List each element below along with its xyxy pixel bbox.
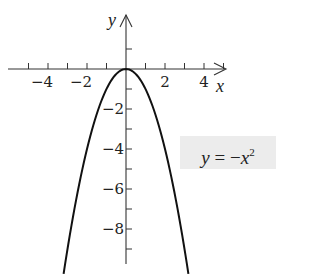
y-tick-labels: −2−4−6−8: [102, 100, 124, 238]
x-tick-label: −2: [70, 73, 92, 91]
y-tick-label: −8: [102, 220, 124, 238]
x-axis-label: x: [215, 76, 224, 96]
x-tick-label: −4: [31, 73, 53, 91]
y-tick-label: −2: [102, 100, 124, 118]
equation-label: y = −x2: [180, 136, 276, 169]
equation-exponent: 2: [249, 146, 255, 158]
equation-equals-minus: = −: [210, 147, 241, 168]
equation-x: x: [241, 147, 249, 168]
equation-y: y: [201, 147, 209, 168]
x-tick-label: 2: [160, 73, 170, 91]
y-tick-label: −4: [102, 140, 124, 158]
y-axis-label: y: [106, 10, 116, 30]
x-tick-label: 4: [199, 73, 209, 91]
y-ticks: [126, 49, 132, 249]
equation-box: y = −x2: [180, 136, 276, 169]
x-tick-labels: −4−224: [31, 73, 209, 91]
y-tick-label: −6: [102, 180, 124, 198]
